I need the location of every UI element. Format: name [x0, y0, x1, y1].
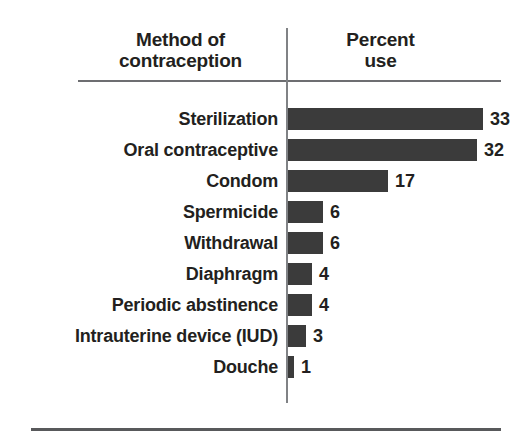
- bottom-divider-rule: [31, 428, 501, 431]
- column-header-percent: Percent use: [293, 29, 468, 71]
- bar-row: Spermicide6: [0, 197, 530, 228]
- bar-track: 4: [288, 294, 530, 316]
- contraception-bar-chart: Method of contraception Percent use Ster…: [0, 0, 530, 441]
- bar-row: Douche1: [0, 352, 530, 383]
- bar-row-label: Sterilization: [179, 107, 278, 131]
- bar-row: Condom17: [0, 166, 530, 197]
- bar-row-label: Periodic abstinence: [112, 293, 278, 317]
- bar-row: Sterilization33: [0, 104, 530, 135]
- bar-row: Periodic abstinence4: [0, 290, 530, 321]
- bar: [288, 201, 323, 223]
- bar-value-label: 33: [490, 107, 510, 131]
- bar-track: 6: [288, 232, 530, 254]
- bar-value-label: 4: [319, 293, 329, 317]
- bar-track: 17: [288, 170, 530, 192]
- bar: [288, 356, 294, 378]
- bar-rows: Sterilization33Oral contraceptive32Condo…: [0, 104, 530, 383]
- bar-row-label: Oral contraceptive: [124, 138, 278, 162]
- column-header-method-line2: contraception: [78, 50, 283, 71]
- bar-value-label: 32: [484, 138, 504, 162]
- bar-track: 3: [288, 325, 530, 347]
- bar-track: 1: [288, 356, 530, 378]
- bar-value-label: 3: [313, 324, 323, 348]
- header-divider-rule: [78, 80, 501, 82]
- bar-row: Intrauterine device (IUD)3: [0, 321, 530, 352]
- column-header-method: Method of contraception: [78, 29, 283, 71]
- bar-row-label: Withdrawal: [184, 231, 278, 255]
- bar-row-label: Condom: [206, 169, 278, 193]
- bar: [288, 139, 477, 161]
- column-header-method-line1: Method of: [78, 29, 283, 50]
- bar: [288, 294, 312, 316]
- bar-value-label: 1: [301, 355, 311, 379]
- bar-row: Diaphragm4: [0, 259, 530, 290]
- bar: [288, 170, 388, 192]
- column-header-percent-line2: use: [293, 50, 468, 71]
- bar-track: 33: [288, 108, 530, 130]
- bar: [288, 232, 323, 254]
- bar: [288, 263, 312, 285]
- bar-value-label: 17: [395, 169, 415, 193]
- bar-row: Oral contraceptive32: [0, 135, 530, 166]
- bar-row: Withdrawal6: [0, 228, 530, 259]
- bar-row-label: Spermicide: [183, 200, 278, 224]
- bar: [288, 325, 306, 347]
- column-header-percent-line1: Percent: [293, 29, 468, 50]
- bar-row-label: Intrauterine device (IUD): [75, 324, 278, 348]
- bar-row-label: Diaphragm: [186, 262, 278, 286]
- bar-value-label: 4: [319, 262, 329, 286]
- bar-value-label: 6: [330, 231, 340, 255]
- bar-row-label: Douche: [213, 355, 278, 379]
- bar-track: 6: [288, 201, 530, 223]
- bar-track: 32: [288, 139, 530, 161]
- bar-value-label: 6: [330, 200, 340, 224]
- bar-track: 4: [288, 263, 530, 285]
- bar: [288, 108, 483, 130]
